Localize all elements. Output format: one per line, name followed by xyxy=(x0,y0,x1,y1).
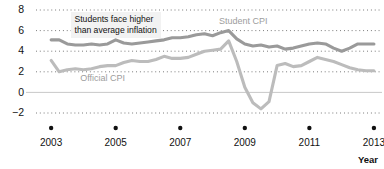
x-tick-label: 2003 xyxy=(40,137,63,148)
data-series xyxy=(51,31,374,109)
x-tick-label: 2011 xyxy=(299,137,321,148)
y-tick-label: 8 xyxy=(18,3,24,15)
x-axis-labels: 200320052007200920112013 xyxy=(40,126,384,148)
chart-plot-area: 86420−2 200320052007200920112013 Student… xyxy=(0,0,384,169)
x-tick-label: 2013 xyxy=(363,137,384,148)
annotation-line-2: than average inflation xyxy=(75,25,157,35)
x-tick-dot xyxy=(243,126,247,130)
x-tick-label: 2007 xyxy=(169,137,192,148)
x-tick-dot xyxy=(113,126,117,130)
series-label-student-cpi: Student CPI xyxy=(219,16,268,26)
series-label-official-cpi: Official CPI xyxy=(80,73,125,83)
y-tick-label: 4 xyxy=(18,44,24,56)
annotation-callout: Students face higher than average inflat… xyxy=(71,12,161,38)
y-tick-label: 2 xyxy=(18,65,24,77)
x-tick-dot xyxy=(178,126,182,130)
x-tick-dot xyxy=(307,126,311,130)
y-tick-label: 6 xyxy=(18,24,24,36)
x-tick-dot xyxy=(49,126,53,130)
x-axis-title: Year xyxy=(358,154,378,165)
inflation-line-chart: 86420−2 200320052007200920112013 Student… xyxy=(0,0,384,169)
annotation-line-1: Students face higher xyxy=(75,14,157,24)
x-tick-label: 2009 xyxy=(234,137,257,148)
x-tick-dot xyxy=(372,126,376,130)
x-tick-label: 2005 xyxy=(105,137,128,148)
y-axis-labels: 86420−2 xyxy=(12,3,24,118)
y-tick-label: 0 xyxy=(18,86,24,98)
y-tick-label: −2 xyxy=(12,106,24,118)
